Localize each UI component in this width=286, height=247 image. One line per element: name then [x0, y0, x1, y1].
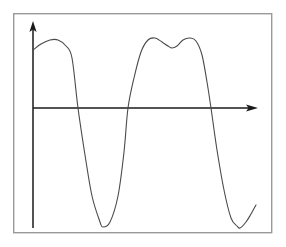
figure-canvas	[0, 0, 286, 247]
waveform-figure	[0, 0, 286, 247]
plot-border	[14, 14, 272, 233]
